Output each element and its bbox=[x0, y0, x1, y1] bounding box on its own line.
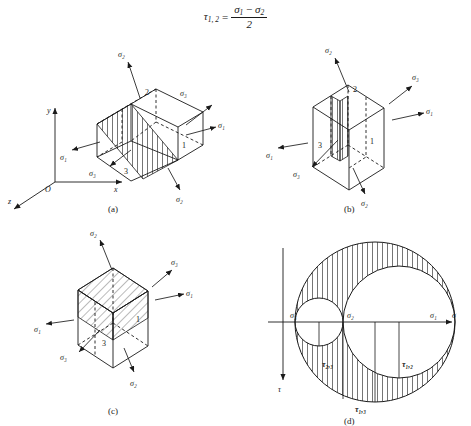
panel-a-caption: (a) bbox=[108, 204, 118, 214]
panel-a-label-sigma2-top: σ₂ bbox=[118, 50, 125, 59]
panel-b-label-sigma2-bottom: σ₂ bbox=[361, 199, 368, 208]
panel-b-face-1: 1 bbox=[370, 137, 374, 146]
panel-a-label-sigma3-left: σ₃ bbox=[89, 169, 96, 178]
panel-d-label-tau-axis: τ bbox=[278, 385, 282, 394]
panel-d: σ₃ σ₂ σ₁ σ τ τ₂,₃ τ₁,₂ τ₁,₃ (d) bbox=[268, 238, 465, 426]
panel-a-face-3: 3 bbox=[124, 167, 128, 176]
panel-c-label-sigma3-left: σ₃ bbox=[60, 353, 67, 362]
panel-b-label-sigma3-left: σ₃ bbox=[293, 170, 300, 179]
panel-c-label-sigma1-left: σ₁ bbox=[34, 325, 41, 334]
panel-a-axis-y-label: y bbox=[46, 106, 51, 115]
panel-d-caption: (d) bbox=[344, 416, 355, 426]
panel-d-label-sigma1: σ₁ bbox=[430, 311, 437, 320]
panel-d-label-sigma3: σ₃ bbox=[290, 311, 297, 320]
panel-a-face-2: 2 bbox=[145, 88, 149, 97]
panel-b-stress-arrows bbox=[278, 58, 424, 194]
panel-c-label-sigma1-right: σ₁ bbox=[186, 289, 193, 298]
panel-b-label-sigma1-right: σ₁ bbox=[426, 107, 433, 116]
panel-d-label-sigma2: σ₂ bbox=[347, 311, 354, 320]
panel-d-label-tau13: τ₁,₃ bbox=[355, 405, 366, 414]
panel-a-axis-z-label: z bbox=[7, 197, 12, 206]
panel-b-label-sigma1-left: σ₁ bbox=[266, 151, 273, 160]
panel-a-face-1: 1 bbox=[182, 141, 186, 150]
panel-c-label-sigma2-bottom: σ₂ bbox=[130, 379, 137, 388]
panel-b-face-2: 2 bbox=[353, 85, 357, 94]
panel-a-origin-label: O bbox=[45, 185, 51, 194]
panel-d-label-tau12: τ₁,₂ bbox=[402, 360, 413, 369]
panel-a-axis-x-label: x bbox=[113, 185, 118, 194]
panel-c: σ₂ σ₃ σ₁ σ₁ σ₃ σ₂ 1 3 (c) bbox=[34, 229, 193, 416]
panel-b-face-3: 3 bbox=[318, 141, 322, 150]
panel-d-shaded-region bbox=[290, 238, 465, 408]
figure-svg: y x z O σ₂ bbox=[0, 0, 471, 426]
panel-a: y x z O σ₂ bbox=[7, 50, 225, 214]
panel-b-caption: (b) bbox=[344, 204, 355, 214]
panel-a-label-sigma1-right: σ₁ bbox=[218, 121, 225, 130]
panel-c-hatched-plane bbox=[78, 268, 148, 340]
panel-b-label-sigma3-right: σ₃ bbox=[412, 73, 419, 82]
panel-b: σ₂ σ₃ σ₁ σ₁ σ₃ σ₂ 2 1 3 (b) bbox=[266, 46, 433, 214]
figure-stress-states: y x z O σ₂ bbox=[0, 0, 471, 426]
panel-c-face-1: 1 bbox=[136, 315, 140, 324]
panel-c-label-sigma2-top: σ₂ bbox=[90, 229, 97, 238]
panel-a-label-sigma3-right: σ₃ bbox=[180, 89, 187, 98]
panel-a-label-sigma1-left: σ₁ bbox=[60, 153, 67, 162]
panel-d-label-tau23: τ₂,₃ bbox=[322, 360, 333, 369]
panel-c-face-3: 3 bbox=[102, 339, 106, 348]
panel-c-label-sigma3-right: σ₃ bbox=[171, 258, 178, 267]
panel-a-label-sigma2-bottom: σ₂ bbox=[176, 195, 183, 204]
panel-a-hatched-plane bbox=[97, 104, 178, 179]
panel-b-hatched-plane bbox=[331, 96, 348, 161]
panel-b-label-sigma2-top: σ₂ bbox=[325, 46, 332, 55]
panel-c-caption: (c) bbox=[108, 406, 118, 416]
